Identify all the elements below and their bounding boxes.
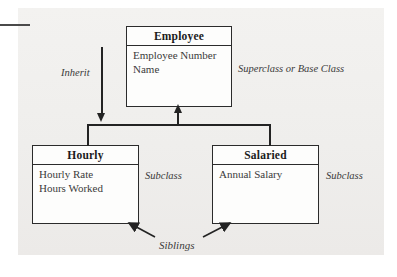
- inheritance-bus-line: [87, 124, 271, 126]
- class-box-employee: Employee Employee Number Name: [126, 26, 232, 107]
- attribute-row: Hourly Rate: [39, 168, 138, 182]
- class-title-salaried: Salaried: [213, 146, 318, 165]
- left-margin-rule: [0, 24, 30, 26]
- inherit-arrowhead-icon: [97, 113, 105, 122]
- class-box-hourly: Hourly Hourly Rate Hours Worked: [32, 145, 139, 224]
- inherit-arrow-shaft: [101, 47, 103, 115]
- annotation-superclass: Superclass or Base Class: [238, 63, 344, 74]
- class-title-hourly: Hourly: [33, 146, 138, 165]
- class-box-salaried: Salaried Annual Salary: [212, 145, 319, 224]
- annotation-subclass-hourly: Subclass: [145, 170, 182, 181]
- attribute-row: Employee Number: [133, 49, 231, 63]
- class-attributes-salaried: Annual Salary: [213, 165, 318, 182]
- class-attributes-hourly: Hourly Rate Hours Worked: [33, 165, 138, 195]
- inheritance-branch-salaried: [269, 124, 271, 146]
- attribute-row: Name: [133, 63, 231, 77]
- attribute-row: Hours Worked: [39, 182, 138, 196]
- diagram-canvas: Employee Employee Number Name Hourly Hou…: [0, 0, 397, 277]
- class-attributes-employee: Employee Number Name: [127, 46, 231, 76]
- class-title-employee: Employee: [127, 27, 231, 46]
- inheritance-arrowhead-icon: [174, 104, 182, 113]
- attribute-row: Annual Salary: [219, 168, 318, 182]
- annotation-inherit: Inherit: [61, 67, 90, 78]
- inheritance-branch-hourly: [87, 124, 89, 146]
- annotation-siblings: Siblings: [159, 239, 194, 251]
- annotation-subclass-salaried: Subclass: [326, 170, 363, 181]
- inheritance-stem-to-employee: [177, 112, 179, 125]
